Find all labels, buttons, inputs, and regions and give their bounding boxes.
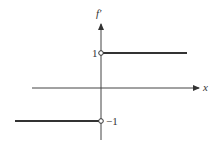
- x-axis-label: x: [202, 81, 208, 93]
- graph: f′ x 1 −1: [0, 0, 221, 143]
- open-circle-upper: [99, 51, 104, 56]
- y-axis-label: f′: [96, 7, 102, 19]
- tick-label-1: 1: [92, 47, 98, 59]
- open-circle-lower: [99, 119, 104, 124]
- tick-label-minus-1: −1: [106, 115, 118, 127]
